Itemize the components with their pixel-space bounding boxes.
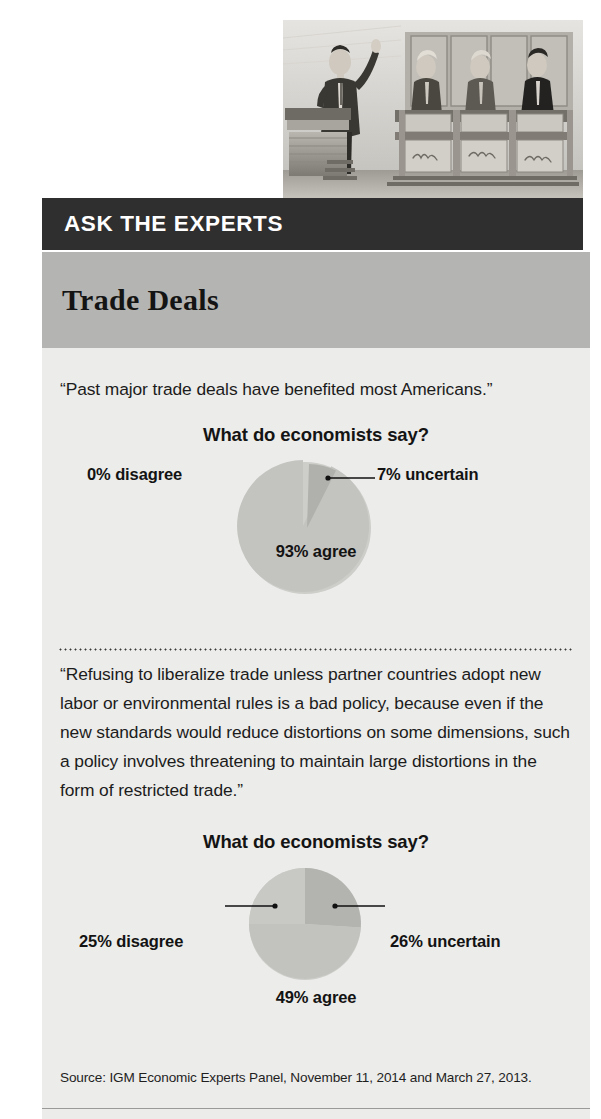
question-heading-2: What do economists say? (42, 831, 590, 853)
pie-1-label-disagree: 0% disagree (87, 465, 182, 484)
host-step (323, 160, 357, 180)
pie-chart-1: 0% disagree 7% uncertain 93% agree (42, 456, 590, 616)
leader-dot-uncertain-1 (325, 475, 330, 480)
pie-1-label-agree: 93% agree (42, 542, 590, 561)
game-show-illustration-graphic (283, 20, 583, 205)
quote-1: “Past major trade deals have benefited m… (60, 375, 572, 404)
leader-dot-uncertain-2 (332, 903, 337, 908)
pie-2-label-agree: 49% agree (42, 988, 590, 1007)
leader-dot-disagree-2 (272, 903, 277, 908)
quote-2: “Refusing to liberalize trade unless par… (60, 660, 572, 805)
pie-2-label-uncertain: 26% uncertain (390, 932, 501, 951)
ask-the-experts-band: ASK THE EXPERTS (42, 198, 583, 250)
bottom-rule (42, 1108, 590, 1109)
title-band: Trade Deals (42, 252, 590, 348)
pie-chart-2: 25% disagree 26% uncertain 49% agree (42, 866, 590, 1034)
page-title: Trade Deals (62, 283, 219, 317)
section-divider (58, 648, 572, 651)
pie-2-label-disagree: 25% disagree (79, 932, 183, 951)
pie-1-label-uncertain: 7% uncertain (377, 465, 479, 484)
question-heading-1: What do economists say? (42, 424, 590, 446)
kicker-text: ASK THE EXPERTS (64, 211, 283, 237)
source-line: Source: IGM Economic Experts Panel, Nove… (60, 1070, 532, 1085)
game-show-illustration (283, 20, 583, 205)
host-lectern (285, 108, 351, 176)
content-panel: “Past major trade deals have benefited m… (42, 348, 590, 1119)
